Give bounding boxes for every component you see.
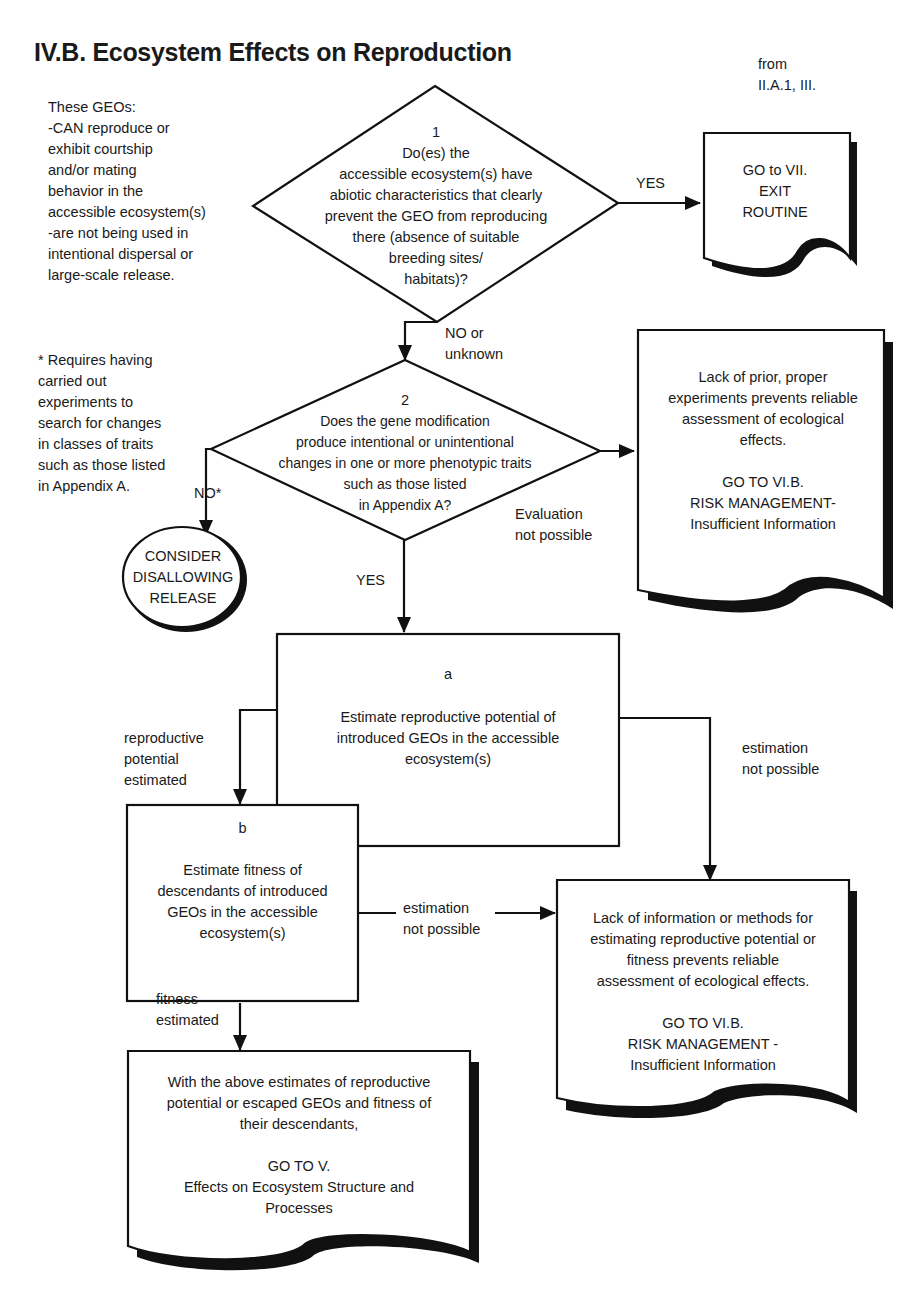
exit-routine-text: GO to VII. EXIT ROUTINE [700,160,850,223]
insufficient-info-2-text: Lack of information or methods for estim… [557,908,849,1076]
insufficient-info-1-text: Lack of prior, proper experiments preven… [640,367,886,535]
a-not-possible-label: estimation not possible [742,738,819,780]
decision-2-text: Does the gene modification produce inten… [230,411,580,516]
decision-1-number: 1 [276,122,596,143]
step-b-letter: b [127,818,358,839]
disallow-release-text: CONSIDER DISALLOWING RELEASE [124,546,242,609]
decision-1-text: Do(es) the accessible ecosystem(s) have … [276,143,596,290]
decision-2-no-label: NO* [194,483,221,504]
step-a-text: Estimate reproductive potential of intro… [277,707,619,770]
fitness-estimated-label: fitness estimated [156,989,219,1031]
footnote: * Requires having carried out experiment… [38,350,165,497]
decision-1-no-label: NO or unknown [445,323,503,365]
decision-1-yes-label: YES [636,173,665,194]
step-b-text: Estimate fitness of descendants of intro… [127,860,358,944]
from-note: from II.A.1, III. [758,54,816,96]
decision-2-yes-label: YES [356,570,385,591]
b-not-possible-label: estimation not possible [403,898,480,940]
page-title: IV.B. Ecosystem Effects on Reproduction [34,38,512,67]
goto-v-text: With the above estimates of reproductive… [128,1072,470,1219]
step-a-letter: a [277,664,619,685]
decision-2-number: 2 [230,390,580,411]
preconditions-note: These GEOs: -CAN reproduce or exhibit co… [48,97,206,286]
repro-estimated-label: reproductive potential estimated [124,728,204,791]
decision-2-eval-label: Evaluation not possible [515,504,592,546]
